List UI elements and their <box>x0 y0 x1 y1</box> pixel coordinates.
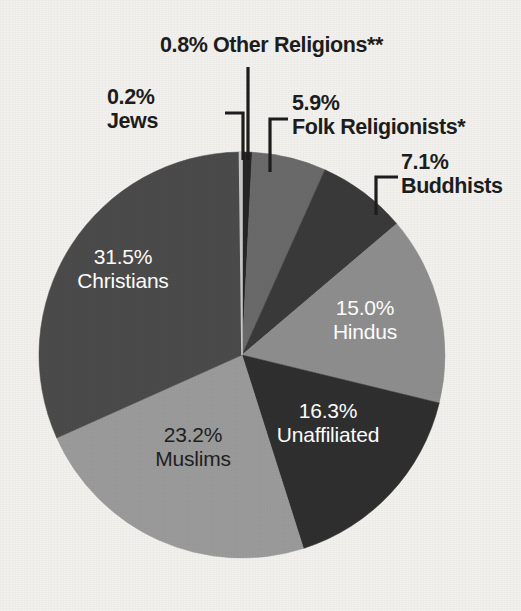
label-jews-name: Jews <box>107 110 158 134</box>
label-jews-pct: 0.2% <box>107 86 158 110</box>
label-christians-name: Christians <box>48 269 198 293</box>
label-folk-religionists: 5.9% Folk Religionists* <box>292 92 465 139</box>
label-muslims-pct: 23.2% <box>128 423 258 447</box>
label-hindus-name: Hindus <box>310 320 420 344</box>
pie-chart: 0.8% Other Religions** 0.2% Jews 5.9% Fo… <box>0 0 521 611</box>
label-buddhists: 7.1% Buddhists <box>401 151 503 198</box>
label-christians-pct: 31.5% <box>48 245 198 269</box>
pie-slices <box>39 152 445 558</box>
label-muslims-name: Muslims <box>128 447 258 471</box>
label-unaffiliated-pct: 16.3% <box>253 399 403 423</box>
label-buddhists-name: Buddhists <box>401 175 503 199</box>
label-folk-religionists-name: Folk Religionists* <box>292 116 465 140</box>
label-christians: 31.5% Christians <box>48 245 198 292</box>
label-folk-religionists-pct: 5.9% <box>292 92 465 116</box>
label-muslims: 23.2% Muslims <box>128 423 258 470</box>
label-hindus: 15.0% Hindus <box>310 296 420 343</box>
label-other-religions: 0.8% Other Religions** <box>160 34 383 58</box>
label-buddhists-pct: 7.1% <box>401 151 503 175</box>
label-jews: 0.2% Jews <box>107 86 158 133</box>
label-hindus-pct: 15.0% <box>310 296 420 320</box>
label-unaffiliated: 16.3% Unaffiliated <box>253 399 403 446</box>
label-other-religions-text: 0.8% Other Religions** <box>160 34 383 58</box>
label-unaffiliated-name: Unaffiliated <box>253 423 403 447</box>
